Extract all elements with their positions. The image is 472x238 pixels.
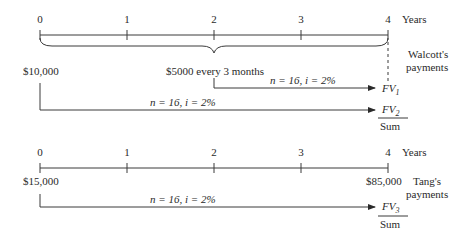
sum-label: Sum [380, 120, 401, 132]
fv3-label: FV3 [381, 200, 399, 215]
initial-payment: $15,000 [23, 175, 59, 187]
initial-payment: $10,000 [23, 65, 59, 77]
years-label: Years [402, 13, 427, 25]
party-label-2: payments [406, 61, 448, 73]
tick-label-3: 3 [298, 13, 304, 25]
walcott-timeline: 0 1 2 3 4 Years $10,000 $5000 every 3 mo… [23, 13, 448, 132]
annuity-label: $5000 every 3 months [166, 65, 264, 77]
tick-label-4: 4 [385, 146, 391, 158]
tick-label-0: 0 [37, 13, 43, 25]
party-label: Walcott's [408, 48, 448, 60]
rate-label: n = 16, i = 2% [150, 96, 216, 108]
rate-label: n = 16, i = 2% [150, 193, 216, 205]
tick-label-4: 4 [385, 13, 391, 25]
tick-label-2: 2 [211, 146, 217, 158]
tick-label-2: 2 [211, 13, 217, 25]
tick-label-1: 1 [124, 146, 130, 158]
tick-label-0: 0 [37, 146, 43, 158]
party-label-2: payments [406, 188, 448, 200]
annuity-brace [40, 38, 388, 53]
cash-flow-diagram: 0 1 2 3 4 Years $10,000 $5000 every 3 mo… [0, 0, 472, 238]
tang-timeline: 0 1 2 3 4 Years $15,000 $85,000 Tang's p… [23, 146, 448, 230]
party-label: Tang's [413, 175, 441, 187]
fv2-label: FV2 [381, 103, 399, 118]
rate-label: n = 16, i = 2% [270, 74, 336, 86]
years-label: Years [402, 146, 427, 158]
sum-label: Sum [380, 218, 401, 230]
fv1-label: FV1 [381, 82, 399, 97]
tick-label-3: 3 [298, 146, 304, 158]
final-payment: $85,000 [366, 175, 402, 187]
tick-label-1: 1 [124, 13, 130, 25]
